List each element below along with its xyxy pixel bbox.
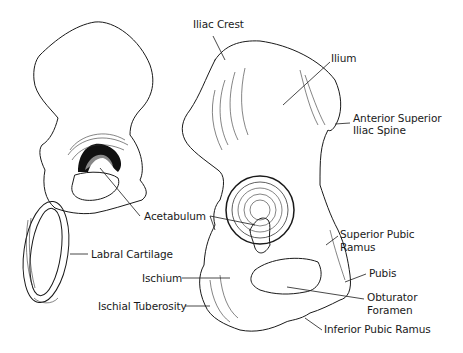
leader-lines [70, 36, 366, 330]
label-iliac-crest: Iliac Crest [193, 18, 244, 30]
label-superior-pubic-ramus-line2: Ramus [340, 241, 375, 253]
label-labral-cartilage: Labral Cartilage [91, 248, 173, 260]
label-obturator-foramen-line2: Foramen [367, 304, 412, 316]
label-acetabulum: Acetabulum [144, 210, 206, 222]
label-ischium: Ischium [142, 272, 182, 284]
label-obturator-foramen-line1: Obturator [367, 291, 417, 303]
label-ischial-tuberosity: Ischial Tuberosity [98, 300, 187, 312]
small-hip-bone-drawing [34, 22, 153, 214]
hip-anatomy-figure: Iliac Crest Ilium Anterior Superior Ilia… [0, 0, 463, 353]
label-anterior-superior-iliac-spine-line1: Anterior Superior [353, 112, 441, 124]
label-pubis: Pubis [369, 267, 396, 279]
label-inferior-pubic-ramus: Inferior Pubic Ramus [324, 323, 431, 335]
label-ilium: Ilium [331, 52, 356, 64]
label-superior-pubic-ramus-line1: Superior Pubic [340, 228, 415, 240]
labral-cartilage-ring-drawing [17, 198, 75, 305]
label-anterior-superior-iliac-spine-line2: Iliac Spine [353, 124, 406, 136]
large-hip-bone-drawing [182, 41, 350, 331]
